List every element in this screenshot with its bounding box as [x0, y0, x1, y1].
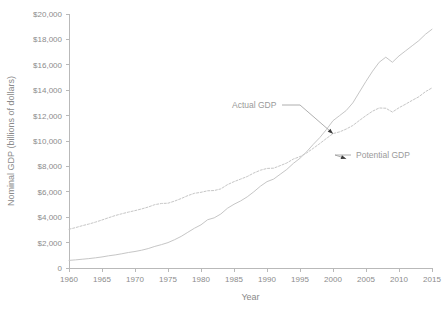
- y-axis-tick-label: $20,000: [33, 10, 62, 19]
- series-line-potential-gdp: [69, 29, 432, 260]
- y-axis-tick-label: $8,000: [38, 162, 63, 171]
- y-axis-title: Nominal GDP (billions of dollars): [6, 76, 16, 206]
- gdp-line-chart: 0$2,000$4,000$6,000$8,000$10,000$12,000$…: [0, 0, 446, 317]
- y-axis-tick-label: $4,000: [38, 213, 63, 222]
- y-axis-tick-label: $16,000: [33, 61, 62, 70]
- x-axis-tick-label: 2010: [390, 275, 408, 284]
- x-axis-tick-label: 2000: [324, 275, 342, 284]
- y-axis-tick-label: $6,000: [38, 188, 63, 197]
- y-axis-tick-label: $12,000: [33, 112, 62, 121]
- x-axis-tick-label: 1965: [93, 275, 111, 284]
- y-axis-tick-label: $2,000: [38, 239, 63, 248]
- y-axis-tick-label: $14,000: [33, 86, 62, 95]
- x-axis-tick-label: 2015: [423, 275, 441, 284]
- annotation-label-actual-gdp: Actual GDP: [232, 100, 277, 110]
- x-axis-tick-label: 1980: [192, 275, 210, 284]
- x-axis: 1960196519701975198019851990199520002005…: [60, 268, 441, 284]
- annotation-leader-line: [282, 105, 333, 134]
- x-axis-tick-label: 1990: [258, 275, 276, 284]
- y-axis-tick-label: 0: [58, 264, 63, 273]
- x-axis-tick-label: 1970: [126, 275, 144, 284]
- y-axis-tick-label: $18,000: [33, 35, 62, 44]
- annotation-label-potential-gdp: Potential GDP: [356, 150, 410, 160]
- x-axis-tick-label: 1960: [60, 275, 78, 284]
- x-axis-tick-label: 2005: [357, 275, 375, 284]
- x-axis-tick-label: 1985: [225, 275, 243, 284]
- y-axis-tick-label: $10,000: [33, 137, 62, 146]
- annotation-group: Actual GDPPotential GDP: [232, 100, 410, 160]
- x-axis-tick-label: 1995: [291, 275, 309, 284]
- data-series-group: [69, 29, 432, 260]
- chart-canvas: 0$2,000$4,000$6,000$8,000$10,000$12,000$…: [0, 0, 446, 317]
- annotation-arrow-head: [341, 155, 347, 159]
- y-axis: 0$2,000$4,000$6,000$8,000$10,000$12,000$…: [33, 10, 69, 273]
- x-axis-tick-label: 1975: [159, 275, 177, 284]
- x-axis-title: Year: [241, 292, 259, 302]
